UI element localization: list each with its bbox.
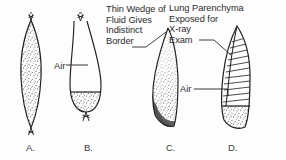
pleural-fluid-figure: Thin Wedge of Fluid Gives Indistinct Bor… [0, 0, 286, 160]
panel-b-tail-top [78, 13, 84, 21]
panel-letter-c: C. [166, 142, 176, 153]
panel-letter-d: D. [228, 142, 238, 153]
panel-a-tail-bottom [29, 128, 34, 135]
annotation-lung-parenchyma: Lung Parenchyma Exposed for X-ray Exam [169, 3, 244, 45]
panel-letter-b: B. [84, 142, 93, 153]
panel-b-tail-bottom [83, 112, 90, 121]
panel-b-drawing [64, 13, 109, 122]
panel-letter-a: A. [26, 142, 35, 153]
annotation-air-panel-b: Air [54, 61, 65, 71]
annotation-air-panel-d: Air [180, 84, 191, 94]
panel-a-tail-top [29, 13, 34, 20]
annotation-thin-wedge: Thin Wedge of Fluid Gives Indistinct Bor… [106, 4, 166, 46]
panel-a-drawing [15, 13, 55, 140]
